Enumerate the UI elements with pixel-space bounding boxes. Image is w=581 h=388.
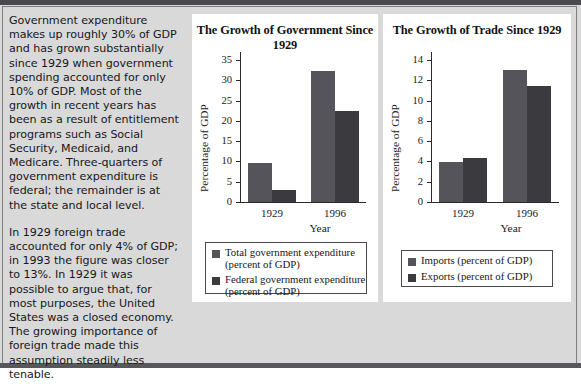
x-axis-tick-label: 1996: [504, 207, 550, 219]
bar-1996-series0: [311, 71, 335, 202]
legend-swatch-icon-exports: [408, 274, 416, 282]
y-axis-tick-label: 0: [210, 197, 232, 207]
y-axis-tick: [236, 121, 240, 122]
legend-item-federal-government-expenditure: Federal government expenditure (percent …: [206, 274, 366, 297]
plot-area-government: 0510152025303519291996: [206, 52, 366, 202]
legend-label-total-line2: (percent of GDP): [225, 258, 300, 270]
y-axis-tick: [427, 161, 431, 162]
y-axis-tick-label: 30: [210, 75, 232, 85]
legend-item-exports: Exports (percent of GDP): [402, 271, 552, 283]
bar-1996-series1: [335, 111, 359, 202]
legend-label-total: Total government expenditure (percent of…: [225, 247, 355, 270]
chart-legend-trade: Imports (percent of GDP) Exports (percen…: [401, 250, 553, 287]
y-axis-tick-label: 15: [210, 136, 232, 146]
legend-item-imports: Imports (percent of GDP): [402, 255, 552, 267]
legend-label-federal-line2: (percent of GDP): [225, 285, 300, 297]
y-axis-line: [240, 52, 241, 202]
y-axis-tick: [427, 141, 431, 142]
x-axis-line: [240, 202, 366, 203]
y-axis-tick: [236, 182, 240, 183]
legend-item-total-government-expenditure: Total government expenditure (percent of…: [206, 247, 366, 270]
x-axis-line: [431, 202, 559, 203]
legend-label-federal: Federal government expenditure (percent …: [225, 274, 365, 297]
chart-title-government: The Growth of Government Since 1929: [192, 23, 378, 53]
y-axis-tick: [427, 80, 431, 81]
y-axis-tick-label: 5: [210, 177, 232, 187]
y-axis-tick-label: 8: [401, 116, 423, 126]
y-axis-tick: [236, 101, 240, 102]
x-axis-label-trade: Year: [431, 222, 581, 234]
y-axis-tick: [427, 202, 431, 203]
y-axis-tick-label: 10: [401, 96, 423, 106]
top-rule-divider: [0, 0, 581, 5]
x-axis-tick-label: 1929: [249, 207, 295, 219]
y-axis-tick-label: 2: [401, 177, 423, 187]
y-axis-tick: [427, 121, 431, 122]
bar-1996-series0: [503, 70, 527, 202]
article-paragraph-1: Government expenditure makes up roughly …: [9, 14, 179, 213]
y-axis-tick: [427, 101, 431, 102]
legend-label-exports: Exports (percent of GDP): [421, 271, 532, 283]
legend-label-federal-line1: Federal government expenditure: [225, 273, 365, 285]
y-axis-tick: [236, 60, 240, 61]
y-axis-tick-label: 25: [210, 96, 232, 106]
y-axis-tick: [236, 141, 240, 142]
page-root: Government expenditure makes up roughly …: [0, 0, 581, 388]
y-axis-tick: [236, 161, 240, 162]
y-axis-tick: [427, 60, 431, 61]
legend-swatch-icon-total: [212, 250, 220, 258]
y-axis-tick-label: 14: [401, 55, 423, 65]
legend-swatch-icon-federal: [212, 277, 220, 285]
bar-1996-series1: [527, 86, 551, 202]
y-axis-tick-label: 20: [210, 116, 232, 126]
bar-1929-series1: [463, 158, 487, 202]
article-paragraph-2: In 1929 foreign trade accounted for only…: [9, 226, 179, 382]
chart-panel-trade: The Growth of Trade Since 1929 Percentag…: [383, 14, 571, 302]
y-axis-tick-label: 0: [401, 197, 423, 207]
article-text-column: Government expenditure makes up roughly …: [9, 14, 179, 388]
x-axis-tick-label: 1996: [312, 207, 358, 219]
x-axis-label-government: Year: [240, 222, 400, 234]
y-axis-tick: [236, 202, 240, 203]
bar-1929-series1: [272, 190, 296, 202]
legend-label-imports: Imports (percent of GDP): [421, 255, 532, 267]
printed-page-sheet: Government expenditure makes up roughly …: [0, 0, 581, 368]
legend-label-total-line1: Total government expenditure: [225, 246, 355, 258]
y-axis-tick: [427, 182, 431, 183]
legend-swatch-icon-imports: [408, 258, 416, 266]
y-axis-tick-label: 12: [401, 75, 423, 85]
bar-1929-series0: [439, 162, 463, 202]
y-axis-tick-label: 4: [401, 156, 423, 166]
chart-legend-government: Total government expenditure (percent of…: [205, 242, 367, 294]
x-axis-tick-label: 1929: [440, 207, 486, 219]
y-axis-line: [431, 52, 432, 202]
y-axis-tick: [236, 80, 240, 81]
y-axis-tick-label: 6: [401, 136, 423, 146]
chart-title-trade: The Growth of Trade Since 1929: [383, 23, 571, 38]
y-axis-tick-label: 10: [210, 156, 232, 166]
chart-panel-government: The Growth of Government Since 1929 Perc…: [192, 14, 378, 302]
plot-area-trade: 0246810121419291996: [397, 52, 559, 202]
y-axis-tick-label: 35: [210, 55, 232, 65]
bar-1929-series0: [248, 163, 272, 202]
